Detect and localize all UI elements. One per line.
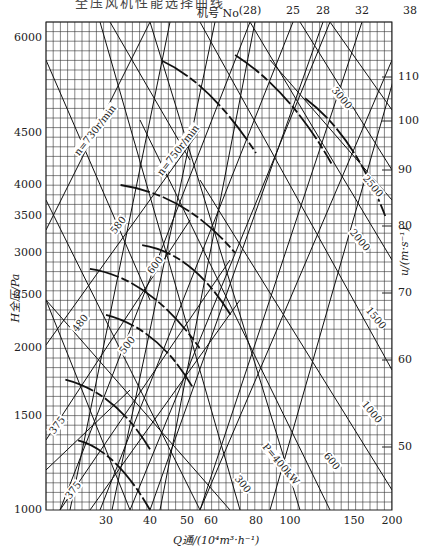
- y-tick: 1500: [4, 409, 42, 422]
- chart-line: [200, 22, 392, 370]
- y-tick: 3500: [4, 209, 42, 222]
- right-tick: 60: [398, 353, 412, 366]
- right-tick: 70: [398, 286, 412, 299]
- x-tick: 80: [249, 514, 263, 527]
- y-tick: 3000: [4, 246, 42, 259]
- x-tick: 60: [204, 514, 218, 527]
- top-axis-tick: 38: [403, 4, 417, 17]
- x-tick: 50: [180, 514, 194, 527]
- y-tick: 6000: [4, 31, 42, 44]
- right-tick: 110: [398, 70, 419, 83]
- chart-line: [150, 22, 300, 510]
- x-tick: 30: [99, 514, 113, 527]
- x-tick: 40: [143, 514, 157, 527]
- x-tick: 100: [280, 514, 301, 527]
- top-axis-tick: 25: [286, 4, 300, 17]
- x-tick: 200: [382, 514, 403, 527]
- chart-line: [100, 22, 293, 510]
- x-axis-label: Q通/(10⁴m³·h⁻¹): [173, 531, 259, 547]
- right-axis-label: u/(m·s⁻¹): [398, 227, 411, 276]
- chart-line: [46, 60, 150, 300]
- top-axis-label: 机号 No: [197, 4, 239, 20]
- fan-selection-chart: [0, 0, 423, 550]
- y-tick: 4000: [4, 178, 42, 191]
- top-axis-tick: 32: [355, 4, 369, 17]
- right-tick: 100: [398, 114, 419, 127]
- y-axis-label: H全压/Pa: [6, 274, 22, 323]
- y-tick: 4500: [4, 126, 42, 139]
- y-tick: 1000: [4, 503, 42, 516]
- y-tick: 2000: [4, 341, 42, 354]
- top-axis-tick: 28: [316, 4, 330, 17]
- right-tick: 90: [398, 163, 412, 176]
- x-tick: 150: [344, 514, 365, 527]
- chart-line: [250, 22, 392, 260]
- right-tick: 50: [398, 440, 412, 453]
- top-axis-tick: (28): [239, 4, 262, 17]
- chart-line: [150, 22, 323, 510]
- performance-curves: [65, 55, 385, 510]
